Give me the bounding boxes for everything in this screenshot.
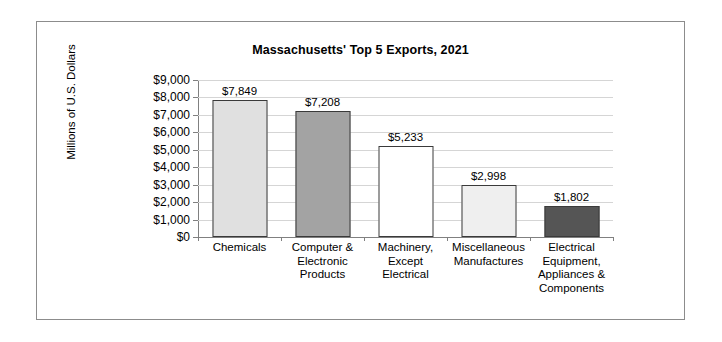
bar-slot: $1,802 bbox=[530, 80, 613, 237]
y-axis-tick-label: $6,000 bbox=[128, 125, 190, 139]
bar[interactable] bbox=[295, 111, 350, 237]
bar-value-label: $7,208 bbox=[305, 96, 340, 108]
chart-title: Massachusetts' Top 5 Exports, 2021 bbox=[37, 43, 684, 57]
y-axis-tick-label: $7,000 bbox=[128, 108, 190, 122]
bar-value-label: $7,849 bbox=[222, 85, 257, 97]
bar[interactable] bbox=[544, 206, 599, 237]
y-axis-tick-label: $4,000 bbox=[128, 160, 190, 174]
bar-value-label: $2,998 bbox=[471, 170, 506, 182]
bar-value-label: $1,802 bbox=[554, 191, 589, 203]
y-axis-tick-label: $9,000 bbox=[128, 73, 190, 87]
y-axis-title: Millions of U.S. Dollars bbox=[65, 22, 85, 182]
bar[interactable] bbox=[212, 100, 267, 237]
y-axis-tick-label: $8,000 bbox=[128, 90, 190, 104]
bar-slot: $5,233 bbox=[364, 80, 447, 237]
y-axis-tick-label: $2,000 bbox=[128, 195, 190, 209]
x-axis-category-label: Computer &ElectronicProducts bbox=[281, 241, 364, 282]
x-axis-category-label: MiscellaneousManufactures bbox=[447, 241, 530, 268]
bar[interactable] bbox=[461, 185, 516, 237]
bar-slot: $2,998 bbox=[447, 80, 530, 237]
x-axis-tick bbox=[613, 237, 614, 241]
bar-slot: $7,208 bbox=[281, 80, 364, 237]
bar-value-label: $5,233 bbox=[388, 131, 423, 143]
bar-series: $7,849$7,208$5,233$2,998$1,802 bbox=[198, 80, 613, 237]
y-axis-tick-label: $5,000 bbox=[128, 143, 190, 157]
x-axis-category-label: ElectricalEquipment,Appliances &Componen… bbox=[530, 241, 613, 295]
x-axis-labels: ChemicalsComputer &ElectronicProductsMac… bbox=[198, 241, 613, 311]
bar[interactable] bbox=[378, 146, 433, 237]
y-axis-tick-label: $3,000 bbox=[128, 178, 190, 192]
axis-baseline bbox=[198, 237, 613, 238]
bar-slot: $7,849 bbox=[198, 80, 281, 237]
x-axis-category-label: Chemicals bbox=[198, 241, 281, 255]
x-axis-category-label: Machinery,ExceptElectrical bbox=[364, 241, 447, 282]
y-axis-tick-label: $0 bbox=[128, 230, 190, 244]
plot-area: $9,000$8,000$7,000$6,000$5,000$4,000$3,0… bbox=[198, 80, 613, 237]
y-axis-tick-label: $1,000 bbox=[128, 213, 190, 227]
chart-frame: Massachusetts' Top 5 Exports, 2021 Milli… bbox=[36, 21, 685, 320]
